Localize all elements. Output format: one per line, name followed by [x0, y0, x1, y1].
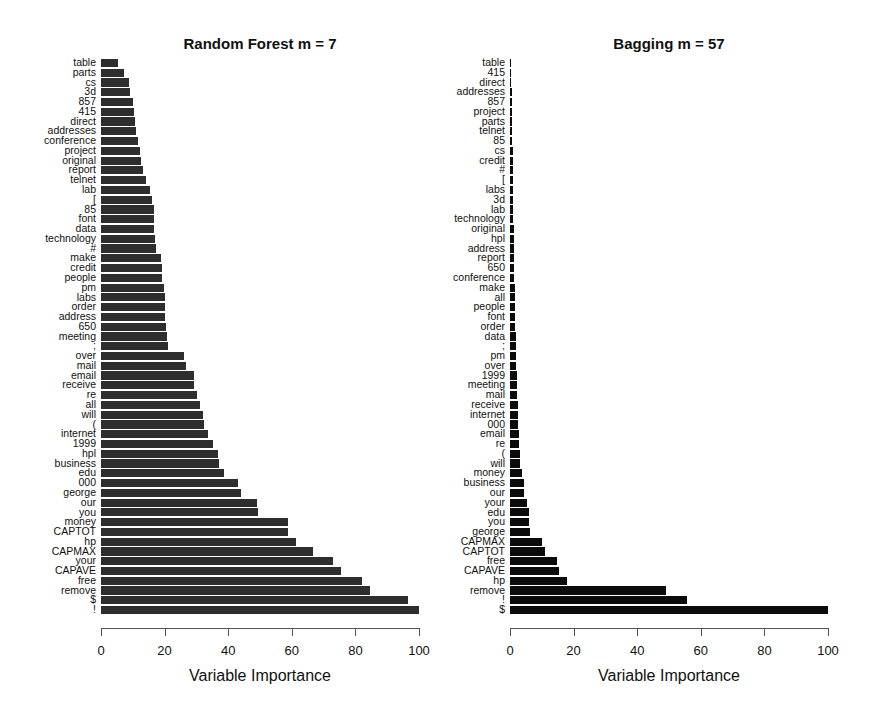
importance-bar [510, 430, 519, 438]
importance-bar [510, 69, 511, 77]
importance-bar [510, 225, 514, 233]
bar-row: internet [101, 429, 419, 439]
bar-row: all [101, 400, 419, 410]
importance-bar [101, 596, 408, 604]
importance-bar [510, 284, 515, 292]
importance-bar [101, 235, 155, 243]
bar-row: 000 [101, 478, 419, 488]
importance-bar [510, 401, 518, 409]
random-forest-panel: Random Forest m = 7 tablepartscs3d857415… [0, 0, 440, 720]
importance-bar [510, 381, 517, 389]
bar-plot-area: tablepartscs3d857415directaddressesconfe… [101, 58, 419, 615]
importance-bar [101, 147, 140, 155]
bar-row: over [101, 351, 419, 361]
importance-bar [101, 577, 362, 585]
importance-bar [510, 157, 513, 165]
bar-row: parts [510, 117, 828, 127]
bar-row: parts [101, 68, 419, 78]
importance-bar [510, 479, 524, 487]
bar-row: 650 [101, 322, 419, 332]
x-tick-mark [637, 628, 638, 636]
importance-bar [510, 166, 513, 174]
x-tick-label: 60 [285, 643, 299, 658]
importance-bar [510, 489, 524, 497]
category-label: meeting [59, 331, 96, 342]
category-label: technology [45, 233, 96, 244]
bar-row: table [101, 58, 419, 68]
importance-bar [510, 606, 828, 614]
importance-bar [101, 166, 143, 174]
bar-row: project [101, 146, 419, 156]
importance-bar [510, 244, 514, 252]
bar-row: email [510, 429, 828, 439]
importance-bar [510, 147, 513, 155]
x-axis-line [101, 628, 419, 629]
bar-row: edu [101, 468, 419, 478]
bar-row: business [510, 478, 828, 488]
importance-bar [101, 186, 150, 194]
bar-row: technology [510, 214, 828, 224]
importance-bar [510, 362, 516, 370]
x-tick-label: 60 [694, 643, 708, 658]
importance-bar [510, 538, 542, 546]
bar-row: free [101, 576, 419, 586]
bar-row: make [510, 283, 828, 293]
bar-row: font [510, 312, 828, 322]
bar-row: ( [101, 420, 419, 430]
bar-row: will [510, 459, 828, 469]
importance-bar [510, 469, 522, 477]
bar-row: [ [101, 195, 419, 205]
bar-row: hpl [101, 449, 419, 459]
importance-bar [101, 547, 313, 555]
importance-bar [101, 499, 257, 507]
bar-row: conference [510, 273, 828, 283]
importance-bar [510, 293, 515, 301]
importance-bar [510, 586, 666, 594]
importance-bar [101, 420, 204, 428]
importance-bar [510, 59, 511, 67]
bar-row: telnet [101, 175, 419, 185]
bar-row: order [101, 302, 419, 312]
importance-bar [101, 59, 118, 67]
bar-row: original [101, 156, 419, 166]
importance-bar [510, 176, 513, 184]
bar-row: re [510, 439, 828, 449]
category-label: ! [93, 604, 96, 615]
x-tick-label: 0 [506, 643, 513, 658]
importance-bar [101, 430, 208, 438]
importance-bar [101, 244, 156, 252]
importance-bar [101, 381, 194, 389]
x-tick-label: 100 [408, 643, 430, 658]
importance-bar [101, 78, 129, 86]
importance-bar [101, 284, 164, 292]
x-tick-mark [228, 628, 229, 636]
bar-row: 3d [101, 87, 419, 97]
importance-bar [101, 323, 166, 331]
importance-bar [510, 313, 515, 321]
importance-bar [101, 117, 135, 125]
bar-row: ! [510, 595, 828, 605]
bar-row: your [101, 556, 419, 566]
bar-row: hp [510, 576, 828, 586]
bar-row: report [101, 165, 419, 175]
bar-row: ! [101, 605, 419, 615]
bar-row: all [510, 293, 828, 303]
importance-bar [101, 586, 370, 594]
bar-row: remove [101, 586, 419, 596]
bar-row: # [510, 165, 828, 175]
importance-bar [510, 577, 567, 585]
x-tick-mark [101, 628, 102, 636]
x-tick-mark [355, 628, 356, 636]
bar-row: 1999 [101, 439, 419, 449]
importance-bar [101, 362, 186, 370]
bar-row: addresses [101, 126, 419, 136]
bar-row: CAPAVE [510, 566, 828, 576]
importance-bar [101, 450, 218, 458]
importance-bar [510, 528, 530, 536]
importance-bar [101, 352, 184, 360]
importance-bar [101, 127, 136, 135]
bar-row: make [101, 253, 419, 263]
bar-row: CAPTOT [510, 547, 828, 557]
x-tick-mark [292, 628, 293, 636]
category-label: $ [499, 604, 505, 615]
